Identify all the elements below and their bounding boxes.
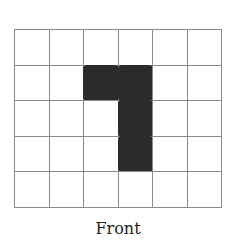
grid-cell bbox=[14, 29, 49, 65]
grid-cell bbox=[118, 29, 153, 65]
grid-cell bbox=[83, 136, 118, 172]
view-label: Front bbox=[0, 219, 236, 238]
grid-cell-filled bbox=[118, 136, 153, 172]
grid-cell bbox=[49, 171, 84, 207]
grid-cell bbox=[152, 65, 187, 101]
view-grid bbox=[14, 29, 222, 208]
grid-cell-filled bbox=[83, 65, 118, 101]
grid-cell-filled bbox=[118, 65, 153, 101]
grid-cell bbox=[152, 171, 187, 207]
grid-cell bbox=[83, 171, 118, 207]
grid-cell bbox=[152, 29, 187, 65]
grid-cell bbox=[49, 136, 84, 172]
grid-cell bbox=[187, 136, 222, 172]
grid-cell bbox=[14, 65, 49, 101]
grid-cell bbox=[187, 171, 222, 207]
grid-cell bbox=[152, 136, 187, 172]
grid-cell bbox=[83, 29, 118, 65]
grid-cell bbox=[49, 65, 84, 101]
grid-cell bbox=[187, 65, 222, 101]
grid-cell bbox=[49, 29, 84, 65]
grid-cell bbox=[49, 100, 84, 136]
grid-cell bbox=[14, 100, 49, 136]
grid-cell bbox=[14, 136, 49, 172]
grid-cell bbox=[118, 171, 153, 207]
grid-cell-filled bbox=[118, 100, 153, 136]
grid-cell bbox=[83, 100, 118, 136]
grid-cell bbox=[187, 29, 222, 65]
grid-cell bbox=[187, 100, 222, 136]
grid-cell bbox=[152, 100, 187, 136]
grid-cell bbox=[14, 171, 49, 207]
